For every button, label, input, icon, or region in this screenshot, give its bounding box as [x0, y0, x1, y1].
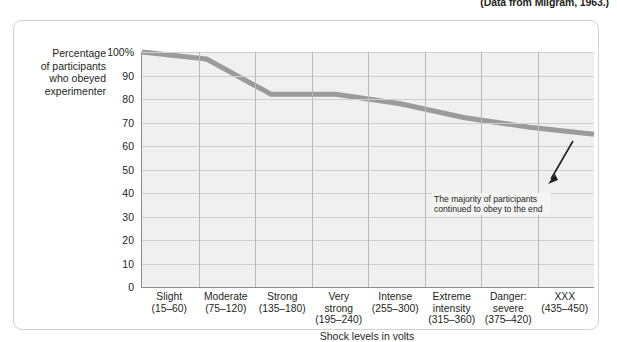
y-axis-title-line: of participants: [22, 60, 106, 73]
vertical-gridline: [255, 52, 256, 287]
x-axis-tick-range: (375–420): [468, 314, 549, 326]
y-axis-tick-labels: 0102030405060708090100%: [98, 46, 138, 268]
vertical-gridline: [425, 52, 426, 287]
y-axis-tick-label: 40: [122, 187, 134, 199]
y-axis-tick-label: 100%: [107, 46, 134, 58]
y-axis-tick-label: 30: [122, 211, 134, 223]
source-credit: (Data from Milgram, 1963.): [480, 0, 609, 8]
y-axis-title-line: who obeyed: [22, 72, 106, 85]
y-axis-tick-label: 60: [122, 140, 134, 152]
y-axis-tick-label: 50: [122, 164, 134, 176]
y-axis-tick-label: 80: [122, 93, 134, 105]
x-axis-tick-range: (195–240): [299, 314, 380, 326]
x-axis-tick-label-line: XXX: [525, 291, 606, 303]
annotation-arrow-icon: [542, 139, 578, 187]
figure-card: Percentageof participantswho obeyedexper…: [13, 20, 599, 330]
y-axis-tick-label: 90: [122, 70, 134, 82]
y-axis-title-line: Percentage: [22, 47, 106, 60]
vertical-gridline: [368, 52, 369, 287]
x-axis-title: Shock levels in volts: [141, 330, 593, 342]
vertical-gridline: [481, 52, 482, 287]
plot-area: [141, 52, 594, 288]
vertical-gridline: [538, 52, 539, 287]
y-axis-title: Percentageof participantswho obeyedexper…: [22, 47, 106, 97]
y-axis-tick-label: 70: [122, 117, 134, 129]
y-axis-title-line: experimenter: [22, 85, 106, 98]
vertical-gridline: [199, 52, 200, 287]
y-axis-tick-label: 20: [122, 234, 134, 246]
annotation-callout: The majority of participants continued t…: [432, 193, 550, 215]
y-axis-tick-label: 10: [122, 258, 134, 270]
vertical-gridline: [312, 52, 313, 287]
x-axis-tick-label: XXX(435–450): [525, 291, 606, 314]
x-axis-tick-range: (435–450): [525, 303, 606, 315]
x-axis-tick-labels: Slight(15–60)Moderate(75–120)Strong(135–…: [141, 291, 593, 331]
